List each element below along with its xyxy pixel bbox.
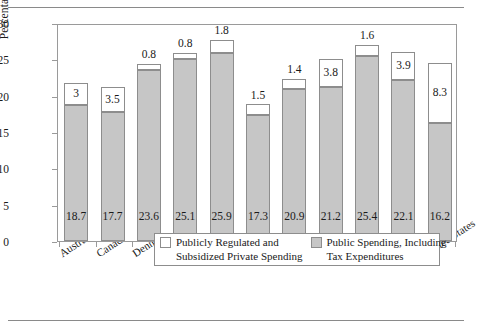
legend-swatch-private-icon: [160, 237, 171, 248]
bar-segment-private[interactable]: [246, 104, 270, 115]
legend-label: Public Spending, IncludingTax Expenditur…: [327, 236, 447, 263]
bar-group[interactable]: 18.73: [64, 25, 88, 241]
bar-segment-public[interactable]: 18.7: [64, 105, 88, 241]
bar-value-private: 3.9: [392, 61, 414, 73]
bar-segment-public[interactable]: 17.3: [246, 115, 270, 241]
bar-value-public: 25.9: [211, 211, 233, 223]
bar-value-private: 1.8: [210, 25, 234, 37]
chart-legend: Publicly Regulated andSubsidized Private…: [154, 233, 440, 266]
bar-group[interactable]: 25.10.8: [173, 25, 197, 241]
bar-value-public: 20.9: [283, 211, 305, 223]
bar-value-private: 0.8: [173, 38, 197, 50]
bar-value-public: 25.1: [174, 211, 196, 223]
bar-value-public: 17.7: [102, 211, 124, 223]
bar-segment-private[interactable]: 3: [64, 83, 88, 105]
y-tick-label: 5: [0, 200, 9, 212]
bar-value-public: 18.7: [65, 211, 87, 223]
bar-value-private: 1.4: [282, 64, 306, 76]
bar-value-private: 8.3: [429, 87, 451, 99]
legend-item[interactable]: Public Spending, IncludingTax Expenditur…: [311, 236, 447, 263]
bar-segment-public[interactable]: 25.1: [173, 59, 197, 241]
bar-segment-public[interactable]: 25.4: [355, 56, 379, 241]
y-tick-label: 15: [0, 127, 9, 139]
bar-segment-private[interactable]: [210, 40, 234, 53]
bar-value-public: 16.2: [429, 211, 451, 223]
bar-group[interactable]: 20.91.4: [282, 25, 306, 241]
x-tick-mark: [455, 242, 456, 247]
bar-value-private: 0.8: [137, 49, 161, 61]
bar-segment-private[interactable]: [173, 53, 197, 59]
bar-segment-public[interactable]: 17.7: [101, 112, 125, 241]
bar-group[interactable]: 23.60.8: [137, 25, 161, 241]
legend-label-line2: Tax Expenditures: [327, 250, 447, 263]
plot-area: 18.7317.73.523.60.825.10.825.91.817.31.5…: [57, 24, 457, 242]
bar-segment-private[interactable]: 3.9: [391, 52, 415, 80]
bar-segment-public[interactable]: 20.9: [282, 89, 306, 241]
legend-label-line1: Public Spending, Including: [327, 236, 447, 248]
bar-segment-public[interactable]: 23.6: [137, 70, 161, 241]
legend-item[interactable]: Publicly Regulated andSubsidized Private…: [160, 236, 303, 263]
bar-segment-private[interactable]: 3.8: [319, 59, 343, 87]
bar-value-public: 21.2: [320, 211, 342, 223]
y-tick-label: 30: [0, 18, 9, 30]
y-tick-label: 25: [0, 54, 9, 66]
bar-value-private: 1.6: [355, 30, 379, 42]
legend-label: Publicly Regulated andSubsidized Private…: [176, 236, 303, 263]
bar-segment-private[interactable]: [355, 45, 379, 57]
y-tick-label: 20: [0, 91, 9, 103]
top-rule: [8, 7, 464, 8]
bar-value-private: 1.5: [246, 90, 270, 102]
bar-segment-private[interactable]: [137, 64, 161, 70]
bar-segment-public[interactable]: 21.2: [319, 87, 343, 241]
bar-group[interactable]: 21.23.8: [319, 25, 343, 241]
bar-value-public: 25.4: [356, 211, 378, 223]
legend-swatch-public-icon: [311, 237, 322, 248]
y-tick-label: 10: [0, 163, 9, 175]
bar-group[interactable]: 25.41.6: [355, 25, 379, 241]
bar-value-private: 3.5: [102, 94, 124, 106]
y-tick-mark: [52, 242, 57, 243]
bar-value-private: 3: [65, 88, 87, 100]
legend-label-line2: Subsidized Private Spending: [176, 250, 303, 263]
y-tick-label: 0: [0, 236, 9, 248]
legend-label-line1: Publicly Regulated and: [176, 236, 279, 248]
bar-segment-private[interactable]: [282, 79, 306, 89]
bar-group[interactable]: 22.13.9: [391, 25, 415, 241]
bottom-rule: [8, 320, 464, 321]
bar-segment-public[interactable]: 22.1: [391, 80, 415, 241]
bar-group[interactable]: 17.31.5: [246, 25, 270, 241]
bar-value-public: 17.3: [247, 211, 269, 223]
bar-segment-public[interactable]: 16.2: [428, 123, 452, 241]
bar-group[interactable]: 17.73.5: [101, 25, 125, 241]
bar-value-public: 22.1: [392, 211, 414, 223]
bar-segment-private[interactable]: 8.3: [428, 63, 452, 123]
bar-group[interactable]: 16.28.3: [428, 25, 452, 241]
bar-segment-private[interactable]: 3.5: [101, 87, 125, 112]
bar-group[interactable]: 25.91.8: [210, 25, 234, 241]
bar-value-private: 3.8: [320, 67, 342, 79]
bar-value-public: 23.6: [138, 211, 160, 223]
bar-segment-public[interactable]: 25.9: [210, 53, 234, 241]
